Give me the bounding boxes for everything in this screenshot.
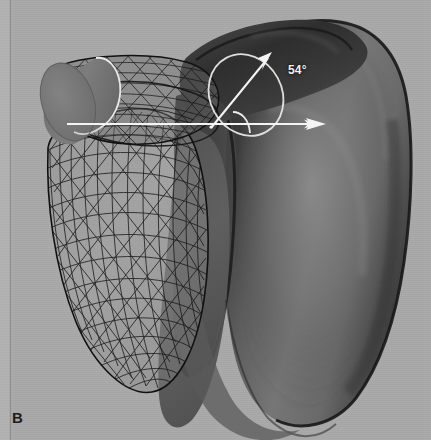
figure-panel: 54° B xyxy=(0,0,431,440)
panel-label: B xyxy=(12,409,23,426)
glenoid-wireframe-mesh xyxy=(48,109,208,393)
3d-scene xyxy=(0,0,431,440)
angle-vertex xyxy=(209,125,212,128)
angle-value-label: 54° xyxy=(288,63,307,77)
